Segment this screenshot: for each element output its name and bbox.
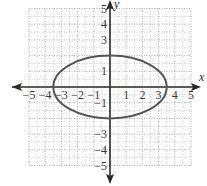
y-tick-label: −5 xyxy=(94,159,107,173)
y-tick-label: 5 xyxy=(101,2,107,16)
coordinate-plane: −5−4−3−2−112345−5−4−3−11345xy xyxy=(0,0,207,186)
x-tick-label: 1 xyxy=(123,88,129,102)
x-tick-label: −3 xyxy=(55,88,68,102)
y-tick-label: −3 xyxy=(94,127,107,141)
x-tick-label: 5 xyxy=(188,88,194,102)
x-tick-label: −2 xyxy=(71,88,84,102)
x-tick-label: 4 xyxy=(172,88,178,102)
x-tick-label: −4 xyxy=(39,88,52,102)
y-tick-label: 1 xyxy=(101,64,107,78)
x-axis-label: x xyxy=(198,70,205,84)
y-tick-label: −4 xyxy=(94,143,107,157)
y-tick-label: 3 xyxy=(101,33,107,47)
y-tick-label: 4 xyxy=(101,17,107,31)
x-tick-label: 2 xyxy=(139,88,145,102)
x-tick-label: 3 xyxy=(156,88,162,102)
x-tick-label: −5 xyxy=(23,88,36,102)
y-tick-label: −1 xyxy=(94,96,107,110)
y-axis-label: y xyxy=(113,0,120,11)
